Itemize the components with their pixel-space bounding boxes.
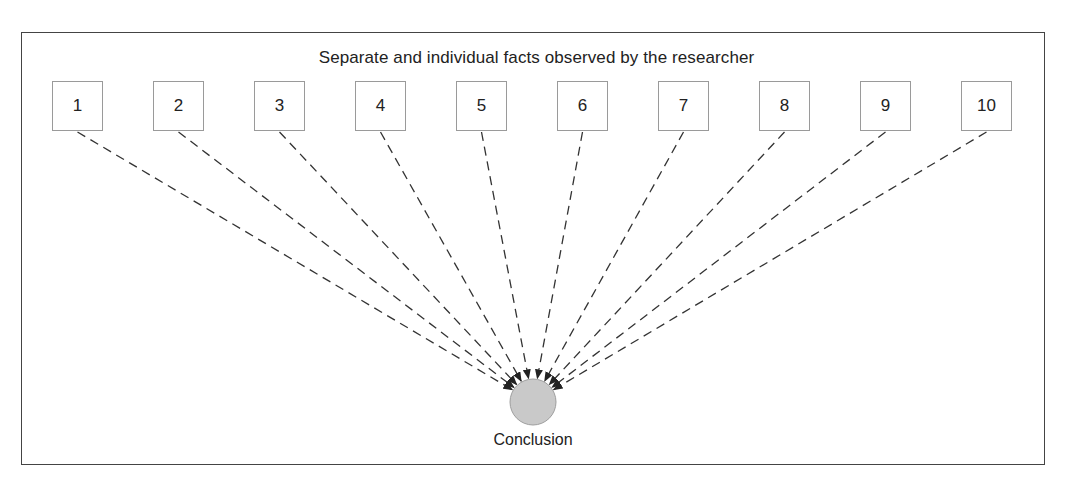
arrows-layer — [0, 0, 1073, 486]
arrow-6 — [537, 132, 582, 378]
arrow-2 — [179, 132, 514, 387]
conclusion-label: Conclusion — [433, 431, 633, 449]
dashed-arrows — [78, 132, 987, 390]
conclusion-circle — [510, 379, 556, 425]
arrow-5 — [482, 132, 529, 378]
arrow-4 — [381, 132, 522, 381]
arrow-8 — [549, 132, 784, 384]
arrow-7 — [545, 132, 684, 381]
arrow-9 — [552, 132, 885, 387]
arrow-1 — [78, 132, 513, 390]
arrow-10 — [554, 132, 987, 390]
arrow-3 — [280, 132, 517, 385]
